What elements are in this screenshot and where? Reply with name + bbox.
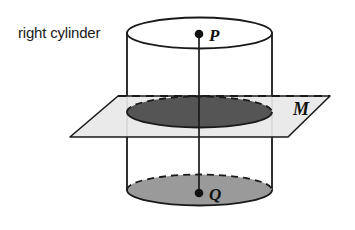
- point-q-dot: [195, 189, 204, 198]
- point-q-label: Q: [209, 185, 221, 204]
- point-p-label: P: [208, 26, 220, 45]
- plane-m-label: M: [292, 99, 310, 119]
- point-p-dot: [195, 30, 204, 39]
- diagram-canvas: P Q M right cylinder: [0, 0, 355, 230]
- figure-caption: right cylinder: [18, 24, 100, 41]
- cylinder-diagram: P Q M right cylinder: [0, 0, 355, 230]
